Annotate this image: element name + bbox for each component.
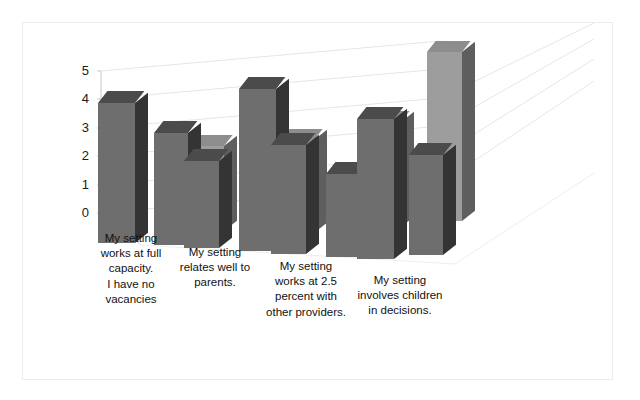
bar-side-face xyxy=(306,135,319,254)
bar-front-face xyxy=(271,145,306,254)
chart-container: 5 4 3 2 1 0 xyxy=(22,22,613,380)
bar-front-face xyxy=(409,155,443,255)
y-axis-tick-1: 1 xyxy=(67,178,89,191)
bar-side-face xyxy=(462,42,475,221)
bar-front-face xyxy=(98,103,135,243)
bar-side-face xyxy=(394,109,407,259)
bar-front-face xyxy=(154,133,188,245)
y-axis-tick-0: 0 xyxy=(67,206,89,219)
bar-front-face xyxy=(184,161,219,248)
bar-group-4-series-0 xyxy=(357,107,409,259)
chart-plot-area: 5 4 3 2 1 0 xyxy=(23,23,614,381)
y-axis-tick-3: 3 xyxy=(67,121,89,134)
bar-side-face xyxy=(135,93,148,243)
bar-group-4-series-2 xyxy=(409,143,457,255)
y-axis-tick-2: 2 xyxy=(67,149,89,162)
bar-side-face xyxy=(443,145,456,255)
y-axis-tick-4: 4 xyxy=(67,92,89,105)
bar-front-face xyxy=(326,174,360,257)
bar-front-face xyxy=(357,119,394,259)
bar-group-2-series-0 xyxy=(184,149,234,248)
y-axis-tick-5: 5 xyxy=(67,64,89,77)
x-axis-category-label-4: My setting involves children in decision… xyxy=(341,273,459,319)
bar-side-face xyxy=(219,151,232,248)
bar-group-3-series-0 xyxy=(271,133,321,254)
bar-group-1-series-0 xyxy=(98,91,150,243)
